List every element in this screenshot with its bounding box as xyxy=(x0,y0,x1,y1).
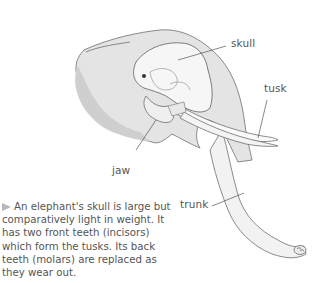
tusk-leader-line xyxy=(258,100,267,138)
trunk-tip xyxy=(294,246,306,255)
skull-label: skull xyxy=(231,37,255,49)
triangle-arrow-icon xyxy=(2,203,11,211)
figure-caption: An elephant's skull is large but compara… xyxy=(2,200,174,279)
tusk-label: tusk xyxy=(264,82,287,94)
caption-text: An elephant's skull is large but compara… xyxy=(2,201,171,278)
trunk-shape xyxy=(210,130,306,258)
trunk-label: trunk xyxy=(180,198,208,210)
jaw-label: jaw xyxy=(112,164,130,176)
